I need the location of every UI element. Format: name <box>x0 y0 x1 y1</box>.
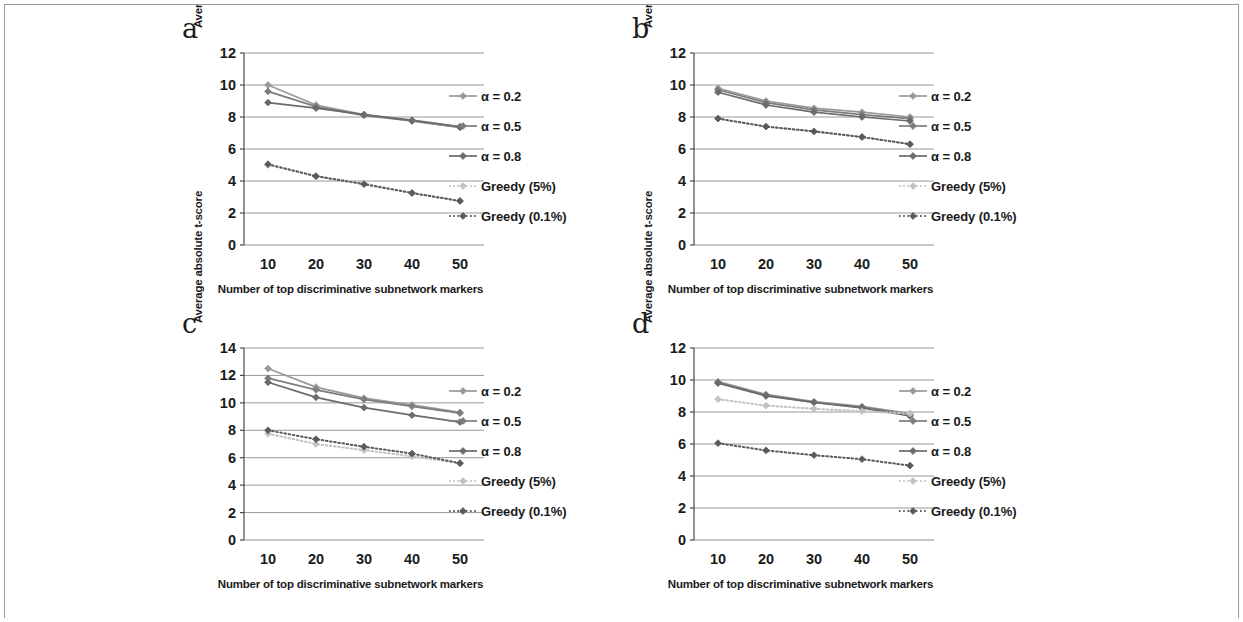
plot-area-d: Average absolute t-score 024681012102030… <box>648 334 938 574</box>
y-axis-label-c: Average absolute t-score <box>192 162 206 352</box>
y-tick-label: 8 <box>228 109 236 125</box>
x-tick-label: 40 <box>854 551 870 567</box>
x-tick-label: 20 <box>308 256 324 272</box>
y-tick-label: 12 <box>670 340 686 356</box>
y-tick-label: 0 <box>228 532 236 548</box>
series-marker <box>763 123 770 130</box>
legend-label: Greedy (5%) <box>931 179 1006 194</box>
series-marker <box>409 190 416 197</box>
x-axis-label-c: Number of top discriminative subnetwork … <box>208 578 493 590</box>
legend-item[interactable]: α = 0.2 <box>898 81 1068 111</box>
series-marker <box>715 440 722 447</box>
y-tick-label: 2 <box>228 205 236 221</box>
legend-swatch-icon <box>448 210 478 222</box>
y-tick-label: 10 <box>220 395 236 411</box>
legend-swatch-icon <box>898 415 928 427</box>
y-tick-label: 10 <box>670 77 686 93</box>
legend-item[interactable]: Greedy (0.1%) <box>898 201 1068 231</box>
legend-item[interactable]: α = 0.8 <box>448 436 618 466</box>
y-tick-label: 12 <box>670 45 686 61</box>
x-tick-label: 40 <box>854 256 870 272</box>
x-tick-label: 10 <box>710 551 726 567</box>
legend-item[interactable]: α = 0.2 <box>448 376 618 406</box>
legend-item[interactable]: α = 0.5 <box>448 111 618 141</box>
x-tick-label: 10 <box>260 551 276 567</box>
x-axis-label-a: Number of top discriminative subnetwork … <box>208 283 493 295</box>
legend-item[interactable]: α = 0.2 <box>448 81 618 111</box>
chart-svg-c: 024681012141020304050 <box>198 334 488 574</box>
legend-swatch-icon <box>448 385 478 397</box>
x-tick-label: 50 <box>902 551 918 567</box>
y-tick-label: 12 <box>220 367 236 383</box>
y-tick-label: 6 <box>678 141 686 157</box>
figure-frame: a Average absolute t-score 0246810121020… <box>4 4 1239 618</box>
y-axis-label-d: Average absolute t-score <box>642 162 656 352</box>
y-tick-label: 8 <box>678 109 686 125</box>
legend-item[interactable]: Greedy (0.1%) <box>448 496 618 526</box>
legend-item[interactable]: α = 0.8 <box>448 141 618 171</box>
legend-item[interactable]: Greedy (0.1%) <box>448 201 618 231</box>
y-tick-label: 0 <box>678 532 686 548</box>
y-tick-label: 8 <box>678 404 686 420</box>
legend-swatch-icon <box>898 90 928 102</box>
y-tick-label: 10 <box>220 77 236 93</box>
x-tick-label: 20 <box>758 256 774 272</box>
legend-item[interactable]: Greedy (5%) <box>898 466 1068 496</box>
legend-b: α = 0.2α = 0.5α = 0.8Greedy (5%)Greedy (… <box>898 81 1068 231</box>
legend-item[interactable]: α = 0.8 <box>898 141 1068 171</box>
series-marker <box>763 447 770 454</box>
series-marker <box>811 128 818 135</box>
legend-label: α = 0.5 <box>931 119 971 134</box>
legend-label: Greedy (5%) <box>481 179 556 194</box>
series-marker <box>763 402 770 409</box>
legend-label: Greedy (5%) <box>931 474 1006 489</box>
legend-label: α = 0.8 <box>481 444 521 459</box>
legend-item[interactable]: Greedy (5%) <box>448 171 618 201</box>
chart-svg-a: 0246810121020304050 <box>198 39 488 279</box>
series-marker <box>859 134 866 141</box>
y-tick-label: 12 <box>220 45 236 61</box>
legend-item[interactable]: α = 0.5 <box>898 406 1068 436</box>
series-marker <box>715 115 722 122</box>
x-tick-label: 30 <box>356 551 372 567</box>
legend-label: α = 0.2 <box>481 384 521 399</box>
x-tick-label: 20 <box>308 551 324 567</box>
legend-item[interactable]: Greedy (0.1%) <box>898 496 1068 526</box>
series-marker <box>313 394 320 401</box>
legend-swatch-icon <box>898 475 928 487</box>
legend-swatch-icon <box>448 150 478 162</box>
series-marker <box>409 412 416 419</box>
y-tick-label: 4 <box>228 173 236 189</box>
legend-swatch-icon <box>448 505 478 517</box>
legend-swatch-icon <box>898 505 928 517</box>
y-tick-label: 4 <box>228 477 236 493</box>
legend-item[interactable]: α = 0.5 <box>448 406 618 436</box>
x-tick-label: 50 <box>452 551 468 567</box>
x-tick-label: 10 <box>710 256 726 272</box>
legend-label: Greedy (0.1%) <box>931 504 1016 519</box>
y-tick-label: 6 <box>228 450 236 466</box>
legend-item[interactable]: α = 0.2 <box>898 376 1068 406</box>
y-tick-label: 8 <box>228 422 236 438</box>
caption-rest: We computed the mean absolute t-test sta… <box>431 616 790 618</box>
x-tick-label: 10 <box>260 256 276 272</box>
chart-svg-d: 0246810121020304050 <box>648 334 938 574</box>
y-tick-label: 0 <box>228 237 236 253</box>
caption-bold: Figure 5 Discriminative power of the ide… <box>27 616 431 618</box>
x-tick-label: 30 <box>806 256 822 272</box>
legend-label: α = 0.8 <box>481 149 521 164</box>
legend-swatch-icon <box>448 475 478 487</box>
legend-item[interactable]: α = 0.8 <box>898 436 1068 466</box>
y-tick-label: 4 <box>678 468 686 484</box>
legend-item[interactable]: α = 0.5 <box>898 111 1068 141</box>
panel-b: b Average absolute t-score 0246810121020… <box>620 13 1220 311</box>
legend-swatch-icon <box>448 180 478 192</box>
legend-label: Greedy (5%) <box>481 474 556 489</box>
legend-item[interactable]: Greedy (5%) <box>448 466 618 496</box>
series-marker <box>265 99 272 106</box>
series-marker <box>859 456 866 463</box>
legend-label: Greedy (0.1%) <box>931 209 1016 224</box>
plot-area-c: Average absolute t-score 024681012141020… <box>198 334 488 574</box>
legend-item[interactable]: Greedy (5%) <box>898 171 1068 201</box>
legend-swatch-icon <box>448 445 478 457</box>
